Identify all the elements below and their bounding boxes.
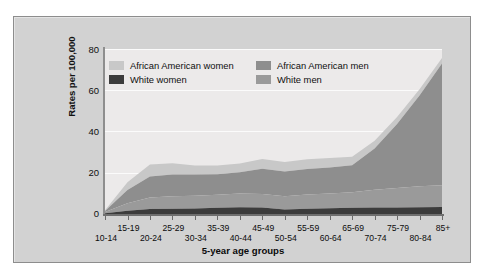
x-tick-label-80-84: 80-84 — [404, 233, 438, 243]
chart-legend: African American women White women Afric… — [109, 59, 409, 87]
legend-swatch-white-men — [256, 75, 271, 84]
legend-column-men: African American men White men — [256, 59, 369, 87]
x-tick-label-85+: 85+ — [426, 223, 460, 233]
legend-item-african-american-women: African American women — [109, 59, 234, 72]
x-tick-mark-40-44 — [240, 216, 241, 220]
legend-column-women: African American women White women — [109, 59, 234, 87]
x-tick-label-65-69: 65-69 — [336, 223, 370, 233]
x-tick-label-10-14: 10-14 — [89, 233, 123, 243]
x-tick-mark-60-64 — [330, 216, 331, 220]
legend-swatch-african-american-women — [109, 61, 124, 70]
legend-item-african-american-men: African American men — [256, 59, 369, 72]
legend-item-white-women: White women — [109, 73, 234, 86]
x-tick-mark-55-59 — [307, 216, 308, 220]
y-axis-tick-labels: 80 60 40 20 0 — [71, 17, 99, 264]
x-tick-label-40-44: 40-44 — [224, 233, 258, 243]
x-tick-mark-75-79 — [397, 216, 398, 220]
x-tick-label-15-19: 15-19 — [111, 223, 145, 233]
legend-label-african-american-men: African American men — [277, 60, 369, 71]
x-tick-label-35-39: 35-39 — [201, 223, 235, 233]
x-tick-label-60-64: 60-64 — [314, 233, 348, 243]
legend-item-white-men: White men — [256, 73, 369, 86]
x-tick-mark-25-29 — [172, 216, 173, 220]
legend-swatch-african-american-men — [256, 61, 271, 70]
x-tick-mark-30-34 — [195, 216, 196, 220]
x-tick-mark-80-84 — [420, 216, 421, 220]
x-tick-mark-15-19 — [128, 216, 129, 220]
x-tick-mark-10-14 — [105, 216, 106, 220]
legend-label-white-men: White men — [277, 74, 322, 85]
x-tick-mark-20-24 — [150, 216, 151, 220]
x-tick-mark-85+ — [442, 216, 443, 220]
x-tick-label-25-29: 25-29 — [156, 223, 190, 233]
x-tick-label-50-54: 50-54 — [269, 233, 303, 243]
y-tick-label-20: 20 — [75, 167, 99, 178]
x-axis-title: 5-year age groups — [14, 245, 472, 256]
x-tick-mark-45-49 — [262, 216, 263, 220]
y-tick-label-0: 0 — [75, 208, 99, 219]
x-tick-mark-70-74 — [375, 216, 376, 220]
x-axis-line — [103, 214, 444, 216]
x-tick-label-30-34: 30-34 — [179, 233, 213, 243]
x-tick-mark-35-39 — [217, 216, 218, 220]
y-tick-label-40: 40 — [75, 126, 99, 137]
x-tick-label-70-74: 70-74 — [359, 233, 393, 243]
x-tick-label-75-79: 75-79 — [381, 223, 415, 233]
chart-frame: Rates per 100,000 80 60 40 20 0 — [13, 16, 471, 263]
chart-figure: Rates per 100,000 80 60 40 20 0 — [0, 0, 486, 280]
legend-label-white-women: White women — [130, 74, 187, 85]
x-tick-label-45-49: 45-49 — [246, 223, 280, 233]
x-tick-mark-50-54 — [285, 216, 286, 220]
x-tick-mark-65-69 — [352, 216, 353, 220]
legend-label-african-american-women: African American women — [130, 60, 234, 71]
x-tick-label-55-59: 55-59 — [291, 223, 325, 233]
x-tick-label-20-24: 20-24 — [134, 233, 168, 243]
legend-swatch-white-women — [109, 75, 124, 84]
y-tick-label-80: 80 — [75, 44, 99, 55]
y-tick-label-60: 60 — [75, 85, 99, 96]
